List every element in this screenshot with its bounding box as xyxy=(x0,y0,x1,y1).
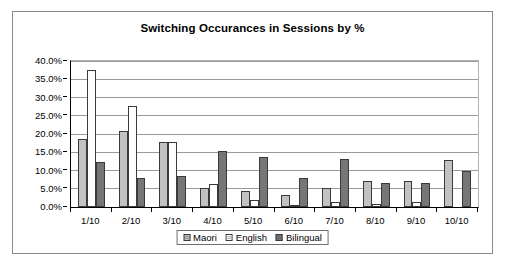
bar-bilingual-4-10 xyxy=(218,151,227,207)
legend-item-english[interactable]: English xyxy=(226,232,267,243)
legend-item-maori[interactable]: Maori xyxy=(183,232,217,243)
bar-maori-4-10 xyxy=(200,188,209,207)
legend-label: Bilingual xyxy=(286,232,322,243)
bar-english-4-10 xyxy=(209,184,218,207)
bar-bilingual-6-10 xyxy=(299,178,308,207)
chart-legend: MaoriEnglishBilingual xyxy=(176,230,329,245)
x-axis-tick-label: 4/10 xyxy=(203,215,222,226)
y-axis-tick-mark xyxy=(63,206,67,207)
bar-maori-7-10 xyxy=(322,188,331,207)
y-axis-tick-mark xyxy=(63,114,67,115)
y-axis-tick-mark xyxy=(63,187,67,188)
bar-maori-2-10 xyxy=(119,131,128,207)
bar-group xyxy=(322,61,349,207)
x-axis-tick-mark xyxy=(70,208,71,212)
bars-layer xyxy=(71,61,478,207)
bar-maori-6-10 xyxy=(281,195,290,207)
bar-maori-8-10 xyxy=(363,181,372,207)
bar-english-9-10 xyxy=(412,202,421,207)
legend-label: English xyxy=(236,232,267,243)
x-axis-tick-label: 9/10 xyxy=(407,215,426,226)
bar-group xyxy=(281,61,308,207)
y-axis-tick-mark xyxy=(63,169,67,170)
bar-maori-1-10 xyxy=(78,139,87,207)
x-axis-tick-label: 5/10 xyxy=(244,215,263,226)
bar-bilingual-9-10 xyxy=(421,183,430,207)
x-axis-tick-mark xyxy=(436,208,437,212)
plot-area xyxy=(70,60,479,208)
y-axis-tick-mark xyxy=(63,133,67,134)
bar-english-7-10 xyxy=(331,202,340,207)
bar-group xyxy=(159,61,186,207)
bar-english-1-10 xyxy=(87,70,96,207)
legend-swatch-icon xyxy=(183,234,190,241)
y-axis-tick-label: 35.0% xyxy=(35,73,62,84)
x-axis-tick-mark xyxy=(477,208,478,212)
bar-english-6-10 xyxy=(290,205,299,207)
chart-container: Switching Occurances in Sessions by % 0.… xyxy=(12,11,493,254)
bar-bilingual-5-10 xyxy=(259,157,268,207)
bar-maori-10-10 xyxy=(444,160,453,207)
y-axis-tick-label: 5.0% xyxy=(40,182,62,193)
x-axis-tick-mark xyxy=(192,208,193,212)
y-axis-tick-mark xyxy=(63,96,67,97)
bar-bilingual-1-10 xyxy=(96,162,105,207)
bar-bilingual-10-10 xyxy=(462,171,471,208)
y-axis: 0.0%5.0%10.0%15.0%20.0%25.0%30.0%35.0%40… xyxy=(13,60,67,208)
bar-english-8-10 xyxy=(372,204,381,207)
bar-bilingual-8-10 xyxy=(381,183,390,207)
x-axis-tick-mark xyxy=(396,208,397,212)
bar-group xyxy=(119,61,146,207)
x-axis-tick-mark xyxy=(111,208,112,212)
bar-bilingual-7-10 xyxy=(340,159,349,207)
bar-group xyxy=(404,61,431,207)
x-axis: 1/102/103/104/105/106/107/108/109/1010/1… xyxy=(70,208,479,232)
legend-label: Maori xyxy=(193,232,217,243)
bar-maori-3-10 xyxy=(159,142,168,207)
bar-english-3-10 xyxy=(168,142,177,207)
y-axis-tick-mark xyxy=(63,60,67,61)
x-axis-tick-label: 2/10 xyxy=(122,215,141,226)
bar-group xyxy=(444,61,471,207)
x-axis-tick-label: 10/10 xyxy=(445,215,469,226)
bar-english-5-10 xyxy=(250,200,259,207)
y-axis-tick-label: 25.0% xyxy=(35,109,62,120)
bar-group xyxy=(241,61,268,207)
x-axis-tick-mark xyxy=(274,208,275,212)
bar-english-2-10 xyxy=(128,106,137,207)
bar-maori-5-10 xyxy=(241,191,250,207)
bar-bilingual-2-10 xyxy=(137,178,146,207)
bar-group xyxy=(78,61,105,207)
legend-item-bilingual[interactable]: Bilingual xyxy=(276,232,322,243)
bar-group xyxy=(200,61,227,207)
x-axis-tick-label: 8/10 xyxy=(366,215,385,226)
x-axis-tick-label: 6/10 xyxy=(285,215,304,226)
x-axis-tick-mark xyxy=(314,208,315,212)
y-axis-tick-mark xyxy=(63,78,67,79)
y-axis-tick-label: 0.0% xyxy=(40,201,62,212)
bar-bilingual-3-10 xyxy=(177,176,186,207)
legend-swatch-icon xyxy=(276,234,283,241)
y-axis-tick-label: 20.0% xyxy=(35,128,62,139)
legend-swatch-icon xyxy=(226,234,233,241)
x-axis-tick-mark xyxy=(355,208,356,212)
x-axis-tick-mark xyxy=(151,208,152,212)
y-axis-tick-label: 40.0% xyxy=(35,55,62,66)
x-axis-tick-label: 1/10 xyxy=(81,215,100,226)
bar-group xyxy=(363,61,390,207)
y-axis-tick-mark xyxy=(63,151,67,152)
x-axis-tick-label: 7/10 xyxy=(325,215,344,226)
bar-maori-9-10 xyxy=(404,181,413,207)
x-axis-tick-mark xyxy=(233,208,234,212)
y-axis-tick-label: 10.0% xyxy=(35,164,62,175)
x-axis-tick-label: 3/10 xyxy=(163,215,182,226)
y-axis-tick-label: 15.0% xyxy=(35,146,62,157)
chart-title: Switching Occurances in Sessions by % xyxy=(13,22,492,34)
y-axis-tick-label: 30.0% xyxy=(35,91,62,102)
